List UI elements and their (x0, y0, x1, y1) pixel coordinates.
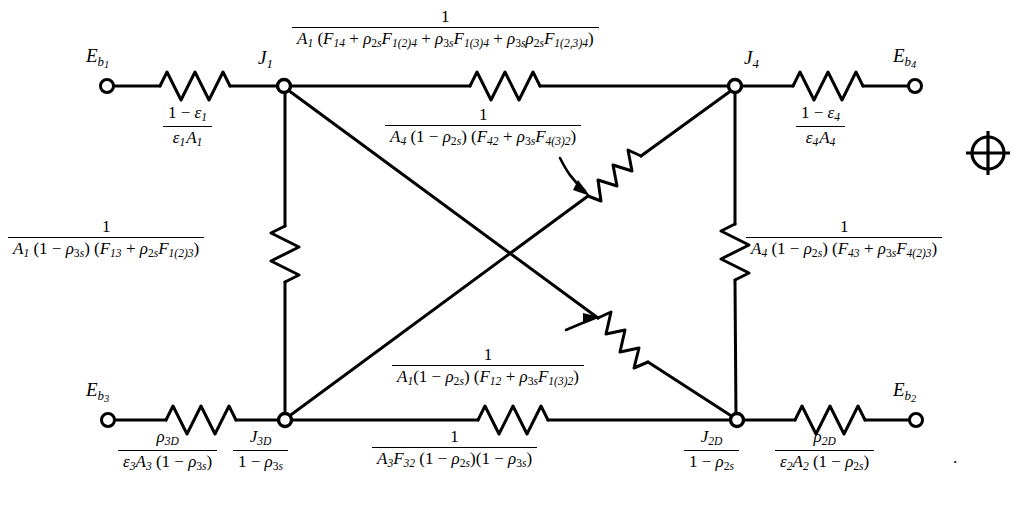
resistor-label-space-3-2: 1 A3F32 (1 − ρ2s)(1 − ρ3s) (372, 428, 537, 470)
wire-j1-to-j4 (284, 72, 735, 100)
figure-canvas: Eb1 Eb4 Eb3 Eb2 J1 J4 J3D 1 − ρ3s J2D 1 … (0, 0, 1029, 510)
terminal-label-eb4: Eb4 (893, 46, 916, 71)
node-j2d (731, 414, 744, 427)
terminal-eb4 (909, 80, 922, 93)
node-label-j3d: J3D 1 − ρ3s (233, 428, 288, 473)
terminal-eb3 (102, 414, 115, 427)
resistor-label-space-1-4: 1 A1 (F14 + ρ2sF1(2)4 + ρ3sF1(3)4 + ρ3sρ… (292, 8, 599, 50)
resistor-label-surface-1: 1 − ε1 ε1A1 (163, 104, 212, 149)
resistor-label-space-4-2: 1 A4 (1 − ρ2s) (F42 + ρ3sF4(3)2) (385, 106, 581, 148)
wire-j1-to-j3d-vertical (271, 86, 299, 420)
terminal-eb2 (910, 414, 923, 427)
node-j4 (729, 80, 742, 93)
node-label-j4: J4 (744, 48, 759, 70)
trailing-period: . (953, 449, 957, 467)
resistor-label-space-1-2: 1 A1(1 − ρ2s) (F12 + ρ3sF1(3)2) (392, 346, 584, 388)
resistor-label-surface-3d: ρ3D ε3A3 (1 − ρ3s) (118, 428, 217, 473)
resistor-label-space-1-3: 1 A1 (1 − ρ3s) (F13 + ρ2sF1(2)3) (8, 218, 204, 260)
node-label-j2d: J2D 1 − ρ2s (684, 428, 739, 473)
terminal-eb1 (101, 80, 114, 93)
resistor-label-space-4-3: 1 A4 (1 − ρ2s) (F43 + ρ3sF4(2)3) (746, 218, 942, 260)
resistor-label-surface-2d: ρ2D ε2A2 (1 − ρ2s) (775, 428, 874, 473)
node-label-j1: J1 (258, 48, 273, 70)
wire-j4-to-j2d-vertical (721, 86, 749, 420)
registration-crosshair-icon (966, 131, 1010, 175)
resistor-label-surface-4: 1 − ε4 ε4A4 (796, 104, 845, 149)
node-j3d (279, 414, 292, 427)
wire-j4-to-eb4 (735, 72, 908, 100)
terminal-label-eb1: Eb1 (86, 46, 109, 71)
wire-eb1-to-j1 (114, 72, 284, 100)
terminal-label-eb3: Eb3 (86, 380, 109, 405)
node-j1 (278, 80, 291, 93)
terminal-label-eb2: Eb2 (893, 380, 916, 405)
